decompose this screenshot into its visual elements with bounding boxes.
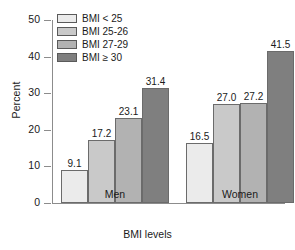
bar: 41.5: [267, 51, 294, 203]
legend-label: BMI 27-29: [82, 39, 128, 50]
legend-swatch: [57, 40, 77, 49]
bar: 16.5: [186, 143, 213, 203]
x-axis-title: BMI levels: [0, 228, 295, 240]
y-axis-tick-label: 10: [28, 159, 40, 171]
bar-value-label: 16.5: [190, 131, 209, 142]
legend: BMI < 25BMI 25-26BMI 27-29BMI ≥ 30: [57, 13, 128, 65]
y-axis-tick: 40: [44, 57, 51, 58]
legend-label: BMI 25-26: [82, 26, 128, 37]
y-axis-tick-label: 50: [28, 13, 40, 25]
bar-value-label: 31.4: [146, 76, 165, 87]
y-axis-tick-label: 40: [28, 50, 40, 62]
y-axis-tick-label: 0: [34, 196, 40, 208]
legend-label: BMI < 25: [82, 13, 122, 24]
y-axis-tick: 50: [44, 20, 51, 21]
bar: 9.1: [61, 170, 88, 203]
legend-item: BMI 25-26: [57, 26, 128, 38]
legend-swatch: [57, 14, 77, 23]
bar-value-label: 23.1: [119, 106, 138, 117]
bar-value-label: 27.0: [217, 92, 236, 103]
legend-label: BMI ≥ 30: [82, 52, 122, 63]
legend-item: BMI < 25: [57, 13, 128, 25]
legend-swatch: [57, 27, 77, 36]
legend-item: BMI ≥ 30: [57, 52, 128, 64]
bmi-bar-chart: Percent 01020304050 9.117.223.131.416.52…: [0, 0, 295, 250]
y-axis-tick: 10: [44, 166, 51, 167]
y-axis-tick-label: 20: [28, 123, 40, 135]
y-axis-tick-label: 30: [28, 86, 40, 98]
legend-item: BMI 27-29: [57, 39, 128, 51]
x-axis-category-label: Men: [105, 188, 125, 200]
legend-swatch: [57, 53, 77, 62]
x-axis-line: [52, 203, 285, 204]
bar-value-label: 9.1: [68, 158, 82, 169]
y-axis-tick: 0: [44, 203, 51, 204]
x-axis-category-label: Women: [222, 188, 258, 200]
y-axis-title: Percent: [10, 60, 22, 140]
bar: 31.4: [142, 88, 169, 203]
bar-value-label: 41.5: [271, 39, 290, 50]
bar-value-label: 27.2: [244, 91, 263, 102]
bar-value-label: 17.2: [92, 128, 111, 139]
y-axis-tick: 30: [44, 93, 51, 94]
y-axis-tick: 20: [44, 130, 51, 131]
